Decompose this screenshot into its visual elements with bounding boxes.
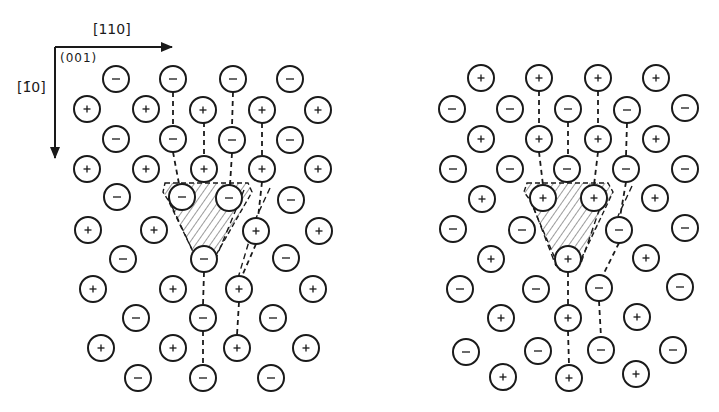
anion-icon <box>586 275 612 301</box>
anion-icon <box>497 96 523 122</box>
cation-icon <box>141 217 167 243</box>
anion-icon <box>497 156 523 182</box>
cation-icon <box>633 245 659 271</box>
anion-icon <box>525 338 551 364</box>
cation-icon <box>526 65 552 91</box>
anion-icon <box>588 337 614 363</box>
cation-icon <box>488 305 514 331</box>
cation-icon <box>160 335 186 361</box>
anion-icon <box>672 95 698 121</box>
lattice-panels <box>74 65 698 391</box>
anion-icon <box>104 184 130 210</box>
dashed-bond <box>603 243 619 275</box>
cation-icon <box>585 126 611 152</box>
anion-icon <box>103 126 129 152</box>
anion-icon <box>123 305 149 331</box>
diagram-canvas <box>0 0 719 412</box>
cation-icon <box>624 304 650 330</box>
anion-icon <box>554 156 580 182</box>
cation-icon <box>224 335 250 361</box>
cation-icon <box>555 246 581 272</box>
y-direction-label: [1̄0] <box>17 80 46 94</box>
anion-icon <box>260 305 286 331</box>
cation-icon <box>305 156 331 182</box>
anion-icon <box>216 185 242 211</box>
x-direction-label: [110] <box>93 22 131 36</box>
crystal-surface-figure: [110] (001) [1̄0] <box>0 0 719 412</box>
cation-icon <box>623 361 649 387</box>
dashed-bond <box>232 92 233 127</box>
cation-icon <box>469 186 495 212</box>
cation-icon <box>526 126 552 152</box>
anion-icon <box>447 276 473 302</box>
right-panel <box>439 65 698 391</box>
cation-icon <box>585 65 611 91</box>
cation-icon <box>530 185 556 211</box>
dashed-bond <box>594 152 598 185</box>
dashed-bond <box>173 152 179 184</box>
cation-icon <box>478 246 504 272</box>
cation-icon <box>293 335 319 361</box>
plane-label: (001) <box>60 52 97 64</box>
cation-icon <box>642 185 668 211</box>
dashed-bond <box>242 244 256 276</box>
cation-icon <box>300 276 326 302</box>
anion-icon <box>440 216 466 242</box>
anion-icon <box>672 156 698 182</box>
cation-icon <box>305 97 331 123</box>
anion-icon <box>277 127 303 153</box>
cation-icon <box>133 96 159 122</box>
anion-icon <box>667 274 693 300</box>
cation-icon <box>581 185 607 211</box>
anion-icon <box>110 246 136 272</box>
cation-icon <box>75 217 101 243</box>
cation-icon <box>243 218 269 244</box>
anion-icon <box>169 184 195 210</box>
cation-icon <box>249 156 275 182</box>
dashed-bond <box>626 123 627 156</box>
cation-icon <box>556 365 582 391</box>
cation-icon <box>74 96 100 122</box>
anion-icon <box>439 96 465 122</box>
anion-icon <box>160 126 186 152</box>
cation-icon <box>191 156 217 182</box>
anion-icon <box>277 66 303 92</box>
anion-icon <box>160 66 186 92</box>
cation-icon <box>468 65 494 91</box>
dashed-bond <box>237 302 239 335</box>
dashed-bond <box>568 331 569 365</box>
anion-icon <box>555 96 581 122</box>
anion-icon <box>103 66 129 92</box>
anion-icon <box>190 365 216 391</box>
cation-icon <box>133 156 159 182</box>
left-panel <box>74 66 332 391</box>
anion-icon <box>660 337 686 363</box>
anion-icon <box>258 365 284 391</box>
anion-icon <box>278 187 304 213</box>
cation-icon <box>555 305 581 331</box>
cation-icon <box>643 65 669 91</box>
dashed-bond <box>203 272 204 305</box>
anion-icon <box>453 339 479 365</box>
anion-icon <box>606 217 632 243</box>
cation-icon <box>490 364 516 390</box>
anion-icon <box>672 215 698 241</box>
anion-icon <box>125 365 151 391</box>
anion-icon <box>219 127 245 153</box>
cation-icon <box>643 126 669 152</box>
dashed-bond <box>258 182 262 218</box>
anion-icon <box>220 66 246 92</box>
anion-icon <box>191 246 217 272</box>
cation-icon <box>160 276 186 302</box>
dashed-bond <box>230 153 232 185</box>
anion-icon <box>613 156 639 182</box>
anion-icon <box>509 217 535 243</box>
anion-icon <box>614 97 640 123</box>
anion-icon <box>440 156 466 182</box>
anion-icon <box>190 305 216 331</box>
cation-icon <box>88 335 114 361</box>
cation-icon <box>249 97 275 123</box>
cation-icon <box>74 156 100 182</box>
cation-icon <box>80 276 106 302</box>
dashed-bond <box>539 152 543 185</box>
